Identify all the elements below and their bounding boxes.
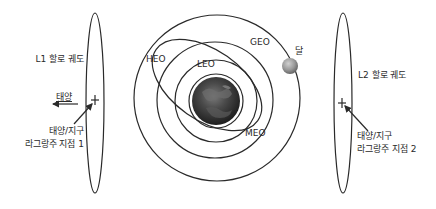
l2-point-label-line2: 라그랑주 지점 2 (357, 144, 416, 155)
l2-pointer-arrow-icon (345, 106, 368, 131)
leo-label: LEO (197, 59, 215, 69)
heo-label: HEO (146, 54, 166, 64)
meo-label: MEO (245, 128, 266, 138)
l1-pointer-arrow-icon (74, 104, 92, 124)
sun-label: 태양 (56, 92, 72, 103)
moon-label: 달 (295, 46, 303, 56)
l1-point-marker-icon (91, 95, 99, 105)
geo-label: GEO (250, 37, 270, 47)
moon-icon (282, 58, 298, 74)
l1-halo-orbit-label: L1 할로 궤도 (20, 54, 84, 65)
orbit-diagram: L1 할로 궤도 태양 태양/지구 라그랑주 지점 1 L2 할로 궤도 태양/… (0, 0, 436, 209)
earth-icon (192, 77, 240, 125)
diagram-canvas (0, 0, 436, 209)
l2-halo-orbit-label: L2 할로 궤도 (358, 70, 406, 81)
l2-point-label-line1: 태양/지구 (357, 131, 392, 142)
l1-point-label-line2: 라그랑주 지점 1 (4, 139, 84, 150)
l1-point-label-line1: 태양/지구 (20, 126, 84, 137)
